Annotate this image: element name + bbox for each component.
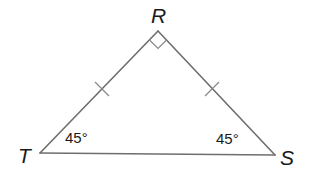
- diagram-canvas: R T S 45° 45°: [0, 0, 318, 180]
- right-angle-marker: [150, 40, 167, 49]
- vertex-label-R: R: [151, 4, 166, 27]
- vertex-label-S: S: [280, 146, 294, 169]
- side-TS: [40, 153, 275, 155]
- side-RT: [40, 31, 158, 153]
- triangle-diagram: R T S 45° 45°: [0, 0, 318, 180]
- angle-label-T: 45°: [65, 129, 88, 146]
- angle-label-S: 45°: [216, 130, 239, 147]
- vertex-label-T: T: [18, 144, 33, 167]
